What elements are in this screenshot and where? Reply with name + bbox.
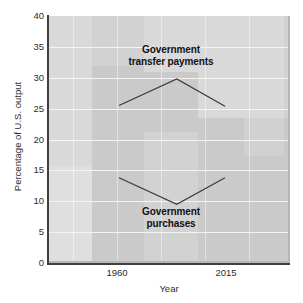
y-tick-label-20: 20 — [4, 135, 44, 145]
x-tick-label-2015: 2015 — [196, 267, 256, 278]
panel-texture-block — [48, 166, 92, 263]
gridline-horizontal — [48, 232, 288, 233]
x-axis-label: Year — [48, 283, 290, 294]
y-tick-label-40: 40 — [4, 11, 44, 21]
panel-texture-block — [244, 16, 284, 156]
annotation-transfer-payments: Government transfer payments — [96, 44, 246, 68]
gridline-horizontal — [48, 109, 288, 110]
gridline-horizontal — [48, 140, 288, 141]
annotation-purchases: Government purchases — [96, 206, 246, 230]
y-tick-label-5: 5 — [4, 227, 44, 237]
gridline-horizontal — [48, 201, 288, 202]
annotation-transfer-line2: transfer payments — [96, 56, 246, 68]
annotation-purchases-line1: Government — [96, 206, 246, 218]
chart-figure: 40 35 30 25 20 15 10 5 0 1960 2015 Perce… — [0, 0, 303, 303]
y-tick-label-30: 30 — [4, 73, 44, 83]
y-tick-label-35: 35 — [4, 42, 44, 52]
gridline-vertical — [73, 16, 74, 261]
y-tick-label-0: 0 — [4, 258, 44, 268]
y-axis-label: Percentage of U.S. output — [12, 52, 23, 222]
annotation-transfer-line1: Government — [96, 44, 246, 56]
y-tick-label-10: 10 — [4, 196, 44, 206]
x-tick-label-1960: 1960 — [87, 267, 147, 278]
panel-texture-block — [144, 72, 198, 132]
gridline-horizontal — [48, 170, 288, 171]
panel-texture-block — [92, 66, 144, 263]
gridline-horizontal — [48, 78, 288, 79]
y-tick-label-25: 25 — [4, 104, 44, 114]
gridline-vertical — [249, 16, 250, 261]
annotation-purchases-line2: purchases — [96, 218, 246, 230]
y-tick-label-15: 15 — [4, 165, 44, 175]
y-axis-line — [47, 15, 49, 264]
x-axis-line — [47, 263, 290, 265]
